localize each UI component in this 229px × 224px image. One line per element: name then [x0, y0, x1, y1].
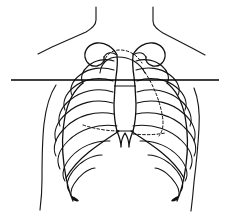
neck-left-outline: [38, 7, 96, 54]
manubrium-bone: [115, 56, 117, 86]
clavicle-right-bone: [133, 43, 165, 66]
clavicle-left-lower-edge: [104, 53, 117, 57]
clavicle-group: [85, 43, 165, 66]
diaphragm-right-dashed: [133, 133, 165, 135]
sternum-body-right-edge: [133, 86, 136, 131]
rib-left-lateral-contour: [63, 83, 83, 201]
rib-left-10: [71, 168, 95, 199]
rib-right-lateral-contour: [167, 83, 187, 201]
thorax-figure: [0, 0, 229, 224]
thorax-diagram-svg: [0, 0, 229, 224]
flank-left-outline: [40, 85, 56, 210]
rib-right-10: [155, 168, 179, 199]
xiphoid-process: [117, 131, 133, 147]
flank-right-outline: [191, 88, 199, 211]
ribs-right-group: [131, 60, 196, 202]
body-outline-group: [38, 7, 205, 211]
sternum-body-left-edge: [114, 86, 117, 131]
clavicle-left-bone: [85, 43, 117, 66]
neck-right-outline: [153, 7, 205, 55]
sternum-group: [114, 56, 136, 147]
